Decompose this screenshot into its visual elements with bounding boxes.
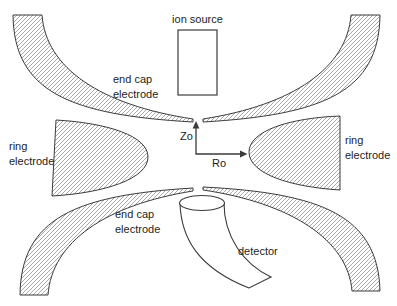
end-cap-bottom-label-line1: end cap: [115, 207, 160, 222]
end-cap-top-label-line1: end cap: [113, 72, 158, 87]
ring-left-label-line2: electrode: [9, 154, 54, 169]
ion-source-label: ion source: [160, 12, 235, 27]
end-cap-electrode-top-left: [13, 15, 193, 122]
ring-right-label-line2: electrode: [345, 148, 390, 163]
ring-electrode-left-label: ring electrode: [9, 139, 54, 169]
ion-trap-diagram: ion source end cap electrode ring electr…: [0, 0, 397, 306]
ring-electrode-right-label: ring electrode: [345, 133, 390, 163]
end-cap-bottom-label-line2: electrode: [115, 222, 160, 237]
ring-electrode-right: [249, 116, 340, 190]
r-axis-arrowhead: [240, 151, 248, 158]
detector-label: detector: [238, 244, 278, 259]
end-cap-electrode-bottom-left: [20, 188, 193, 295]
z-axis-label: Zo: [180, 129, 193, 144]
diagram-canvas: [0, 0, 397, 306]
detector-opening: [180, 196, 225, 211]
end-cap-bottom-label: end cap electrode: [115, 207, 160, 237]
end-cap-top-label: end cap electrode: [113, 72, 158, 102]
z-r-axes-lines: [196, 127, 241, 154]
ring-right-label-line1: ring: [345, 133, 390, 148]
ring-electrode-left: [52, 120, 148, 196]
r-axis-label: Ro: [212, 156, 226, 171]
ion-source-box: [178, 30, 217, 95]
end-cap-top-label-line2: electrode: [113, 87, 158, 102]
z-axis-arrowhead: [193, 121, 200, 129]
end-cap-electrode-top-right: [203, 15, 380, 122]
ring-left-label-line1: ring: [9, 139, 54, 154]
